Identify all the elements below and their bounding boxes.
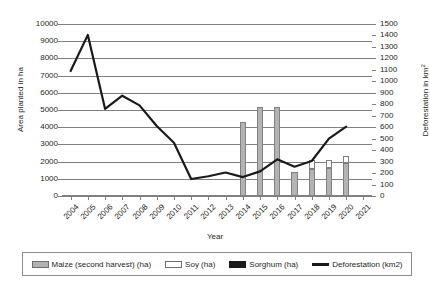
y-axis-right-tick-label: 1000 bbox=[380, 77, 398, 85]
sorghum-swatch bbox=[229, 261, 246, 268]
y-axis-right-tick-label: 1100 bbox=[380, 66, 397, 74]
legend-item[interactable]: Soy (ha) bbox=[165, 260, 215, 269]
chart-container: Area planted in ha Deforestation in km2 … bbox=[0, 0, 430, 290]
x-axis-line bbox=[62, 195, 372, 196]
y-axis-left-tick-label: 2000 bbox=[40, 158, 58, 166]
y-axis-right-tick-label: 400 bbox=[380, 146, 393, 154]
y-axis-right-tick-label: 1200 bbox=[380, 54, 398, 62]
y-axis-right-tick-label: 300 bbox=[380, 158, 393, 166]
legend-item[interactable]: Maize (second harvest) (ha) bbox=[32, 260, 152, 269]
y-axis-right-tick-label: 700 bbox=[380, 112, 393, 120]
y-axis-right-tick-mark bbox=[372, 116, 376, 117]
legend-label: Soy (ha) bbox=[185, 260, 215, 269]
y-axis-left-title: Area planted in ha bbox=[16, 30, 25, 170]
y-axis-left-tick-label: 9000 bbox=[40, 37, 58, 45]
y-axis-right-tick-mark bbox=[372, 58, 376, 59]
y-axis-right-tick-label: 1500 bbox=[380, 20, 398, 28]
y-axis-left-tick-mark bbox=[58, 196, 62, 197]
chart-legend: Maize (second harvest) (ha)Soy (ha)Sorgh… bbox=[22, 252, 412, 276]
y-axis-right-tick-mark bbox=[372, 150, 376, 151]
y-axis-right-tick-label: 900 bbox=[380, 89, 393, 97]
y-axis-right-tick-mark bbox=[372, 127, 376, 128]
deforestation-line-swatch bbox=[312, 263, 329, 266]
x-axis-title: Year bbox=[0, 232, 430, 241]
y-axis-left-tick-label: 3000 bbox=[40, 140, 58, 148]
deforestation-polyline bbox=[71, 35, 347, 179]
y-axis-right-tick-label: 1300 bbox=[380, 43, 398, 51]
y-axis-left-tick-label: 1000 bbox=[40, 175, 58, 183]
maize-swatch bbox=[32, 261, 49, 268]
y-axis-right-tick-mark bbox=[372, 173, 376, 174]
soy-swatch bbox=[165, 261, 182, 268]
y-axis-left-tick-label: 8000 bbox=[40, 54, 58, 62]
y-axis-right-tick-mark bbox=[372, 196, 376, 197]
y-axis-right-tick-mark bbox=[372, 139, 376, 140]
y-axis-right-tick-mark bbox=[372, 24, 376, 25]
y-axis-right-tick-mark bbox=[372, 185, 376, 186]
y-axis-right-tick-label: 100 bbox=[380, 181, 393, 189]
y-axis-right-tick-label: 500 bbox=[380, 135, 393, 143]
y-axis-right-title-text: Deforestation in km bbox=[421, 68, 430, 137]
legend-item[interactable]: Deforestation (km2) bbox=[312, 260, 402, 269]
y-axis-left-tick-label: 5000 bbox=[40, 106, 58, 114]
y-axis-right-tick-mark bbox=[372, 35, 376, 36]
y-axis-right-tick-label: 200 bbox=[380, 169, 393, 177]
deforestation-line-series bbox=[62, 24, 372, 196]
y-axis-right-tick-mark bbox=[372, 104, 376, 105]
legend-label: Sorghum (ha) bbox=[249, 260, 298, 269]
plot-area bbox=[62, 24, 372, 196]
legend-label: Deforestation (km2) bbox=[332, 260, 402, 269]
y-axis-right-tick-label: 0 bbox=[380, 192, 384, 200]
y-axis-right-tick-mark bbox=[372, 93, 376, 94]
y-axis-right-tick-mark bbox=[372, 162, 376, 163]
y-axis-left-tick-label: 6000 bbox=[40, 89, 58, 97]
y-axis-left-tick-label: 4000 bbox=[40, 123, 58, 131]
y-axis-right-tick-mark bbox=[372, 81, 376, 82]
y-axis-right-title-superscript: 2 bbox=[420, 64, 426, 67]
legend-item[interactable]: Sorghum (ha) bbox=[229, 260, 298, 269]
y-axis-left-tick-label: 10000 bbox=[36, 20, 58, 28]
y-axis-right-title: Deforestation in km2 bbox=[420, 30, 430, 170]
y-axis-right-tick-label: 1400 bbox=[380, 31, 398, 39]
y-axis-right-tick-label: 800 bbox=[380, 100, 393, 108]
y-axis-right-tick-mark bbox=[372, 70, 376, 71]
y-axis-right-tick-mark bbox=[372, 47, 376, 48]
legend-label: Maize (second harvest) (ha) bbox=[52, 260, 152, 269]
y-axis-right-tick-label: 600 bbox=[380, 123, 393, 131]
gridline bbox=[62, 196, 372, 197]
y-axis-left-tick-label: 7000 bbox=[40, 72, 58, 80]
